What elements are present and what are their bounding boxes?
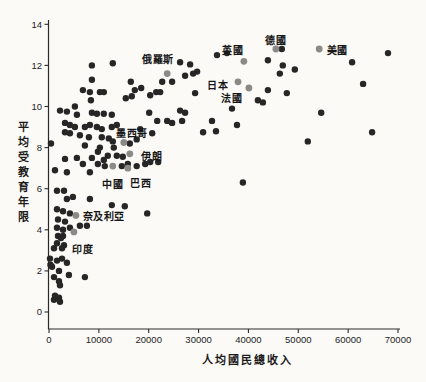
country-label: 印度 — [72, 240, 93, 255]
data-point — [80, 161, 86, 167]
y-tick-label: 6 — [37, 183, 42, 194]
data-point — [209, 118, 215, 124]
data-point — [49, 264, 55, 270]
country-label: 墨西哥 — [116, 125, 148, 140]
country-label: 英國 — [222, 42, 243, 57]
country-point — [273, 46, 280, 53]
country-label: 俄羅斯 — [142, 50, 174, 65]
x-tick-label: 60000 — [335, 334, 361, 345]
data-point — [102, 163, 108, 169]
data-point — [179, 118, 185, 124]
data-point — [284, 90, 290, 96]
country-point — [73, 212, 80, 219]
data-point — [111, 144, 117, 150]
data-point — [95, 149, 101, 155]
country-label: 法國 — [221, 90, 242, 105]
data-point — [62, 218, 68, 224]
data-point — [110, 60, 116, 66]
data-point — [213, 128, 219, 134]
data-point — [52, 167, 58, 173]
country-label: 美國 — [327, 41, 348, 56]
country-label: 奈及利亞 — [83, 208, 125, 223]
data-point — [61, 188, 67, 194]
data-point — [54, 206, 60, 212]
country-point — [316, 46, 323, 53]
data-point — [64, 260, 70, 266]
data-point — [60, 233, 66, 239]
country-label: 中國 — [102, 176, 123, 191]
data-point — [265, 57, 271, 63]
data-point — [234, 122, 240, 128]
data-point — [182, 110, 188, 116]
country-point — [126, 150, 133, 157]
data-point — [89, 155, 95, 161]
country-point — [71, 229, 78, 236]
data-point — [87, 89, 93, 95]
data-point — [86, 134, 92, 140]
x-axis-title: 人均國民總收入 — [202, 351, 293, 367]
data-point — [280, 62, 286, 68]
data-point — [177, 59, 183, 65]
country-point — [109, 163, 116, 170]
data-point — [128, 79, 134, 85]
data-point — [51, 274, 57, 280]
data-point — [360, 81, 366, 87]
data-point — [105, 153, 111, 159]
data-point — [279, 46, 285, 52]
data-point — [127, 140, 133, 146]
x-tick-label: 0 — [46, 334, 51, 345]
data-point — [87, 196, 93, 202]
data-point — [159, 79, 165, 85]
data-point — [157, 89, 163, 95]
data-point — [119, 163, 125, 169]
data-point — [305, 138, 311, 144]
data-point — [80, 87, 86, 93]
data-point — [94, 111, 100, 117]
y-tick-label: 14 — [31, 19, 42, 30]
data-point — [84, 223, 90, 229]
y-tick-label: 10 — [31, 101, 42, 112]
data-point — [72, 124, 78, 130]
data-point — [51, 297, 57, 303]
country-label: 巴西 — [130, 175, 151, 190]
data-point — [182, 73, 188, 79]
data-point — [59, 255, 65, 261]
data-point — [129, 93, 135, 99]
data-point — [99, 134, 105, 140]
data-point — [66, 272, 72, 278]
data-point — [101, 111, 107, 117]
data-point — [72, 103, 78, 109]
data-point — [67, 130, 73, 136]
data-point — [229, 105, 235, 111]
y-tick-label: 0 — [37, 306, 42, 317]
data-point — [57, 299, 63, 305]
x-tick-label: 40000 — [235, 334, 261, 345]
country-point — [120, 139, 127, 146]
data-point — [169, 79, 175, 85]
data-point — [187, 61, 193, 67]
data-point — [144, 210, 150, 216]
data-point — [277, 70, 283, 76]
data-point — [349, 59, 355, 65]
data-point — [54, 225, 60, 231]
data-point — [67, 210, 73, 216]
data-point — [57, 107, 63, 113]
education-income-scatter-figure: 平均受教育年限 02468101214010000200003000040000… — [0, 0, 426, 382]
data-point — [56, 268, 62, 274]
country-label: 德國 — [265, 31, 286, 46]
data-point — [89, 62, 95, 68]
data-point — [82, 274, 88, 280]
country-point — [241, 58, 248, 65]
data-point — [51, 245, 57, 251]
data-point — [77, 132, 83, 138]
country-point — [235, 78, 242, 85]
data-point — [192, 90, 198, 96]
data-point — [89, 77, 95, 83]
x-tick-label: 50000 — [285, 334, 311, 345]
data-point — [55, 216, 61, 222]
data-point — [265, 87, 271, 93]
data-point — [120, 154, 126, 160]
data-point — [169, 120, 175, 126]
data-point — [74, 112, 80, 118]
y-tick-label: 4 — [37, 224, 42, 235]
